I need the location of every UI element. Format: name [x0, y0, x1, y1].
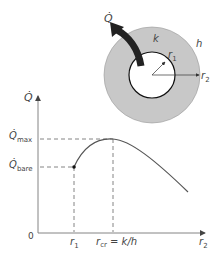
critical-radius-diagram: Q̇ k h r1 r2 Q̇ 0 r2 Q̇max Q̇bare r1 rcr…	[0, 0, 221, 261]
origin-label: 0	[28, 231, 34, 241]
qbare-label: Q̇bare	[9, 158, 33, 173]
rcr-tick-label: rcr = k/h	[96, 236, 137, 249]
insulated-cylinder-inset: Q̇ k h r1 r2	[104, 12, 210, 123]
bare-point	[72, 165, 76, 169]
y-axis-label: Q̇	[24, 91, 33, 104]
convection-label: h	[196, 38, 202, 49]
qmax-label: Q̇max	[9, 129, 32, 144]
heat-flow-label: Q̇	[104, 12, 113, 25]
x-axis-label: r2	[199, 236, 208, 250]
outer-radius-label: r2	[201, 70, 210, 84]
heat-transfer-curve	[74, 139, 188, 192]
r1-tick-label: r1	[70, 236, 79, 250]
